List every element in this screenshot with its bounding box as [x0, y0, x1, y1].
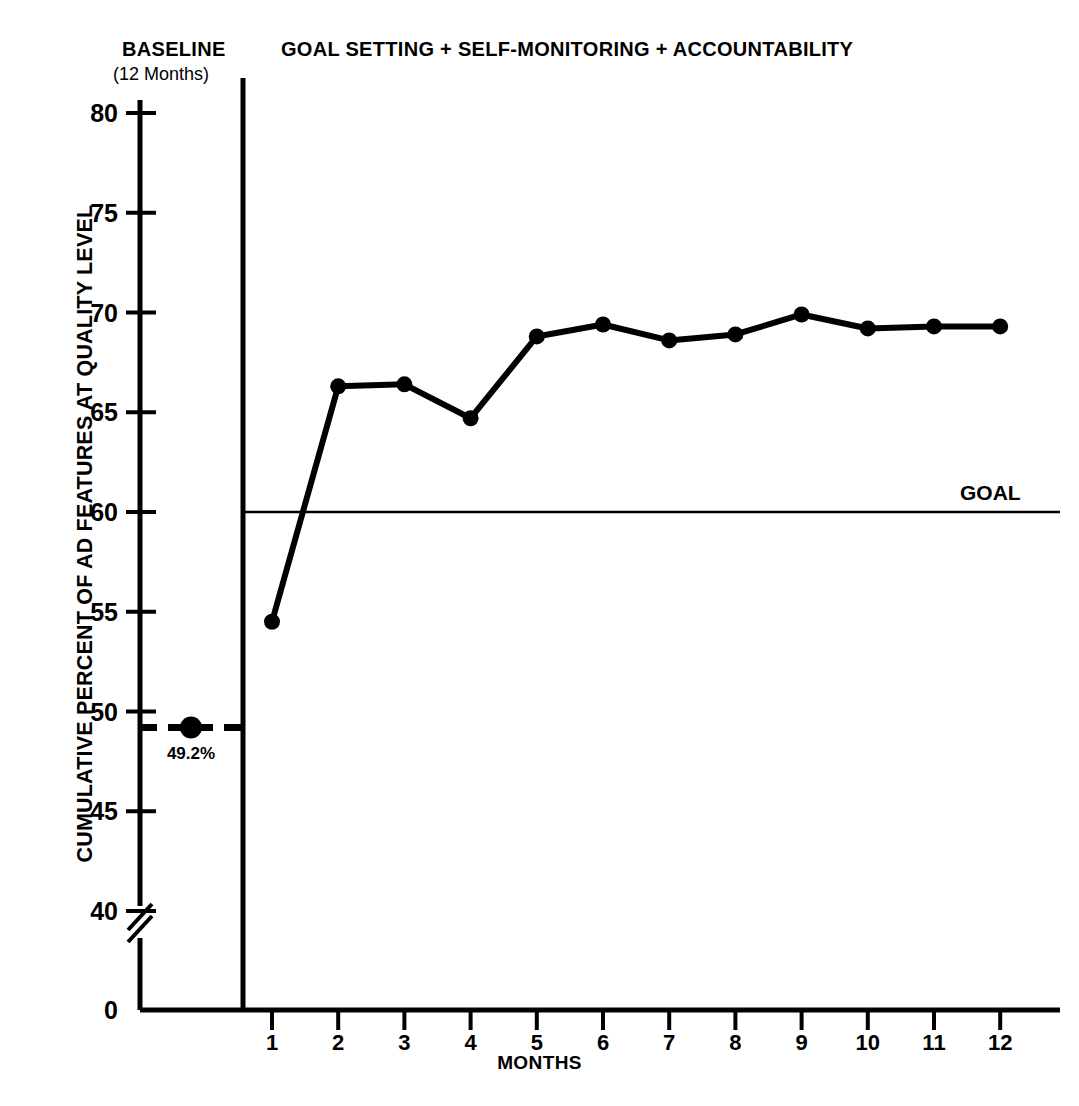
x-axis-tick-label: 2: [332, 1030, 344, 1055]
x-axis-tick-label: 3: [398, 1030, 410, 1055]
x-axis-tick-label: 9: [795, 1030, 807, 1055]
data-point: [463, 410, 479, 426]
x-axis-tick-label: 8: [729, 1030, 741, 1055]
y-axis-tick-label: 50: [90, 698, 118, 726]
chart-figure: BASELINE (12 Months) GOAL SETTING + SELF…: [0, 0, 1079, 1106]
y-axis-tick-label: 65: [90, 398, 118, 426]
plot-area: 4045505560657075800 123456789101112 GOAL…: [0, 0, 1079, 1106]
x-axis-tick-label: 12: [988, 1030, 1012, 1055]
x-axis-ticks: 123456789101112: [266, 1012, 1013, 1055]
y-axis-tick-label: 75: [90, 199, 118, 227]
data-point: [529, 328, 545, 344]
x-axis-tick-label: 7: [663, 1030, 675, 1055]
x-axis-tick-label: 4: [464, 1030, 477, 1055]
x-axis-tick-label: 6: [597, 1030, 609, 1055]
data-series-markers: [264, 306, 1008, 629]
data-point: [661, 332, 677, 348]
x-axis-tick-label: 5: [531, 1030, 543, 1055]
y-axis-tick-label: 60: [90, 498, 118, 526]
y-axis-tick-label: 45: [90, 797, 118, 825]
data-point: [992, 318, 1008, 334]
data-point: [860, 320, 876, 336]
y-axis-zero-label: 0: [104, 996, 118, 1024]
data-point: [727, 326, 743, 342]
baseline-value-label: 49.2%: [167, 744, 215, 763]
data-point: [396, 376, 412, 392]
data-point: [264, 614, 280, 630]
y-axis-tick-label: 70: [90, 299, 118, 327]
x-axis-tick-label: 11: [922, 1030, 945, 1055]
data-point: [794, 306, 810, 322]
y-axis-tick-label: 40: [90, 897, 118, 925]
x-axis-tick-label: 1: [266, 1030, 278, 1055]
y-axis-tick-label: 55: [90, 598, 118, 626]
baseline-data-point: [180, 716, 202, 738]
data-point: [926, 318, 942, 334]
y-axis-ticks: 4045505560657075800: [90, 99, 156, 1024]
data-point: [595, 316, 611, 332]
y-axis-tick-label: 80: [90, 99, 118, 127]
goal-line-label: GOAL: [960, 481, 1021, 504]
x-axis-tick-label: 10: [856, 1030, 880, 1055]
data-series-line: [272, 314, 1000, 621]
data-point: [330, 378, 346, 394]
